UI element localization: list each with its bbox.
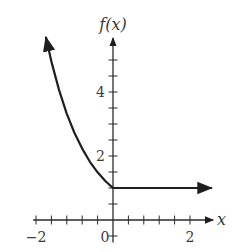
y-axis-tick-labels: 24 [96,84,105,164]
function-curve [46,38,211,188]
y-tick-label: 4 [96,84,105,100]
x-axis-label: x [217,210,226,229]
plot-area: −202 x 24 f(x) [0,0,232,252]
x-axis: −202 x [26,210,226,245]
y-tick-label: 2 [96,148,105,164]
y-axis-label: f(x) [98,15,126,34]
x-tick-label: −2 [26,229,47,245]
y-axis: 24 f(x) [96,15,127,242]
curve-line [46,38,211,188]
x-tick-label: 0 [101,229,110,245]
x-tick-label: 2 [186,229,195,245]
function-graph: −202 x 24 f(x) [0,0,232,252]
x-axis-tick-labels: −202 [26,229,195,245]
